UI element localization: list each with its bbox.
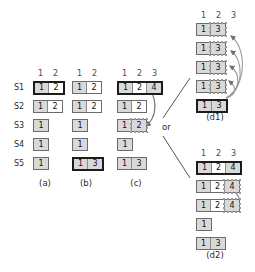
sequence-s1: 1 2 xyxy=(33,81,65,95)
cell: 1 xyxy=(118,139,132,150)
row-label-s2: S2 xyxy=(14,99,31,114)
table-row: 1 xyxy=(72,118,104,133)
col-header: 2 xyxy=(211,148,226,159)
table-row: S5 1 xyxy=(33,156,65,171)
row-label-s5: S5 xyxy=(14,156,31,171)
row-label-s3: S3 xyxy=(14,118,31,133)
table-row: 1 xyxy=(117,137,163,152)
col-header: 2 xyxy=(87,68,102,79)
cell: 1 xyxy=(73,82,87,93)
table-row: S4 1 xyxy=(33,137,65,152)
cell-highlighted: 4 xyxy=(225,181,239,192)
sequence-s2: 1 3 xyxy=(196,42,226,55)
table-row: 1 2 4 xyxy=(117,80,163,95)
sequence-s5: 1 3 xyxy=(117,157,147,170)
sequence-s3: 1 2 xyxy=(117,119,147,132)
table-row: S1 1 2 xyxy=(33,80,65,95)
sequence-s2: 1 2 xyxy=(72,100,102,113)
cell: 1 xyxy=(197,81,211,92)
col-header: 2 xyxy=(48,68,63,79)
col-header: 1 xyxy=(117,68,132,79)
cell: 3 xyxy=(132,158,146,169)
cell: 1 xyxy=(118,101,132,112)
sequence-s5: 1 xyxy=(33,157,49,170)
sequence-s3: 1 xyxy=(72,119,88,132)
panel-a: 1 2 S1 1 2 S2 1 2 S3 1 xyxy=(33,68,65,175)
branch-line-lower xyxy=(163,136,190,178)
sequence-s5: 1 3 xyxy=(72,157,104,171)
sequence-s3: 1 2 4 xyxy=(196,199,240,212)
cell: 3 xyxy=(88,159,102,169)
cell: 2 xyxy=(48,101,62,112)
sequence-s2: 1 2 xyxy=(117,100,147,113)
panel-a-column-headers: 1 2 xyxy=(33,68,65,79)
col-header: 2 xyxy=(211,10,226,21)
sequence-s3: 1 3 xyxy=(196,61,226,74)
sequence-s4: 1 xyxy=(196,218,212,231)
table-row: 1 2 xyxy=(72,99,104,114)
sequence-projection-figure: 1 2 S1 1 2 S2 1 2 S3 1 xyxy=(0,0,255,272)
cell: 1 xyxy=(197,43,211,54)
cell: 1 xyxy=(74,159,88,169)
cell: 3 xyxy=(211,238,225,249)
table-row: 1 xyxy=(196,217,242,232)
cell: 1 xyxy=(197,219,211,230)
cell: 4 xyxy=(226,163,240,173)
cell-highlighted: 3 xyxy=(211,24,225,35)
table-row: S2 1 2 xyxy=(33,99,65,114)
cell: 1 xyxy=(73,120,87,131)
cell: 2 xyxy=(211,200,225,211)
panel-a-rows: S1 1 2 S2 1 2 S3 1 S4 xyxy=(33,80,65,175)
or-label: or xyxy=(162,122,171,132)
sequence-s1: 1 3 xyxy=(196,23,226,36)
sequence-s4: 1 xyxy=(33,138,49,151)
sequence-s1: 1 2 4 xyxy=(117,81,163,95)
sequence-s5: 1 3 xyxy=(196,99,228,113)
branch-line-upper xyxy=(163,78,190,118)
table-row: 1 3 xyxy=(196,60,241,75)
panel-d2-caption: (d2) xyxy=(195,250,235,260)
cell: 1 xyxy=(197,24,211,35)
panel-c-rows: 1 2 4 1 2 1 2 1 xyxy=(117,80,163,175)
panel-b-rows: 1 2 1 2 1 1 xyxy=(72,80,104,175)
table-row: 1 3 xyxy=(196,98,241,113)
cell: 1 xyxy=(197,181,211,192)
panel-b: 1 2 1 2 1 2 1 xyxy=(72,68,104,175)
table-row: 1 3 xyxy=(196,22,241,37)
panel-d1-caption: (d1) xyxy=(195,112,235,122)
cell-highlighted: 3 xyxy=(211,62,225,73)
col-header: 1 xyxy=(196,148,211,159)
row-label-s4: S4 xyxy=(14,137,31,152)
table-row: 1 3 xyxy=(72,156,104,171)
panel-d1: 1 2 3 1 3 1 3 1 3 xyxy=(196,10,241,117)
cell: 2 xyxy=(132,101,146,112)
table-row: 1 2 4 xyxy=(196,179,242,194)
sequence-s4: 1 3 xyxy=(196,80,226,93)
cell: 1 xyxy=(73,101,87,112)
cell-highlighted: 3 xyxy=(211,81,225,92)
table-row: 1 xyxy=(72,137,104,152)
cell: 4 xyxy=(147,83,161,93)
row-label-s1: S1 xyxy=(14,80,31,95)
col-header: 3 xyxy=(226,148,241,159)
table-row: S3 1 xyxy=(33,118,65,133)
panel-d2: 1 2 3 1 2 4 1 2 4 1 xyxy=(196,148,242,255)
panel-d1-column-headers: 1 2 3 xyxy=(196,10,241,21)
cell: 1 xyxy=(118,120,132,131)
sequence-s1: 1 2 4 xyxy=(196,161,242,175)
panel-d1-rows: 1 3 1 3 1 3 1 3 xyxy=(196,22,241,117)
col-header: 1 xyxy=(72,68,87,79)
cell: 1 xyxy=(119,83,133,93)
sequence-s5: 1 3 xyxy=(196,237,226,250)
cell: 2 xyxy=(211,181,225,192)
table-row: 1 2 xyxy=(117,118,163,133)
col-header: 3 xyxy=(147,68,162,79)
cell: 2 xyxy=(212,163,226,173)
col-header: 3 xyxy=(226,10,241,21)
panel-c: 1 2 3 1 2 4 1 2 1 2 xyxy=(117,68,163,175)
panel-d2-column-headers: 1 2 3 xyxy=(196,148,242,159)
cell: 1 xyxy=(197,62,211,73)
cell-highlighted: 4 xyxy=(225,200,239,211)
panel-d2-rows: 1 2 4 1 2 4 1 2 4 xyxy=(196,160,242,255)
col-header: 2 xyxy=(132,68,147,79)
